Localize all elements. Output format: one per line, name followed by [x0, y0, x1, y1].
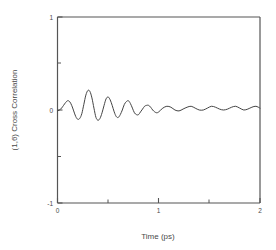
y-tick-label-mid: 0 — [49, 107, 53, 114]
y-tick-label-top: 1 — [49, 14, 53, 21]
x-tick-label-0: 0 — [56, 207, 60, 214]
data-series-line — [58, 90, 261, 120]
x-axis-ticks — [58, 198, 261, 203]
plot-frame — [58, 17, 261, 203]
x-tick-label-1: 1 — [157, 207, 161, 214]
x-axis-title: Time (ps) — [141, 232, 175, 241]
y-tick-label-bottom: -1 — [47, 200, 53, 207]
chart-figure: 1 0 -1 0 1 2 Time (ps) (1,6) Cross Corre… — [0, 0, 276, 250]
cross-correlation-line-chart: 1 0 -1 0 1 2 Time (ps) (1,6) Cross Corre… — [0, 0, 276, 250]
y-axis-title: (1,6) Cross Correlation — [10, 70, 19, 151]
x-tick-label-2: 2 — [258, 207, 262, 214]
